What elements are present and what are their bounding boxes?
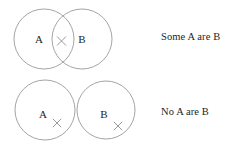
- row-no-a-are-b: A B: [15, 80, 135, 140]
- caption-some-a-are-b: Some A are B: [161, 31, 220, 42]
- euler-diagram-figure: A B A B Some A are B No A are B: [0, 0, 248, 149]
- set-label-b-top: B: [78, 33, 85, 45]
- circle-a-overlapping: [14, 9, 74, 69]
- diagram-canvas: A B A B: [0, 0, 248, 149]
- row-some-a-are-b: A B: [14, 9, 112, 69]
- x-mark-in-a-icon: [53, 119, 61, 127]
- x-mark-in-b-icon: [114, 122, 122, 130]
- set-label-a-top: A: [35, 33, 43, 45]
- x-mark-intersection-icon: [57, 37, 66, 46]
- caption-no-a-are-b: No A are B: [161, 106, 209, 117]
- set-label-a-bottom: A: [39, 108, 47, 120]
- set-label-b-bottom: B: [100, 108, 107, 120]
